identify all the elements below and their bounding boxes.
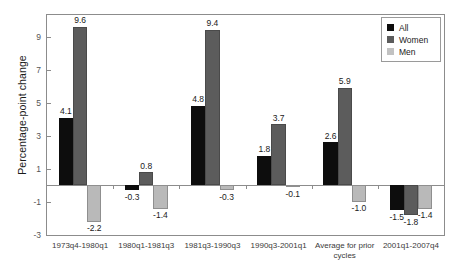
bar-value-label: 0.8 xyxy=(133,161,159,171)
bar-all xyxy=(59,118,73,186)
y-axis-tick-label: 7 xyxy=(28,65,41,75)
y-axis-tick-label: 3 xyxy=(28,131,41,141)
bar-value-label: -0.3 xyxy=(214,192,240,202)
y-axis-tick xyxy=(47,136,51,137)
y-axis-tick xyxy=(47,169,51,170)
bar-all xyxy=(191,106,205,185)
bar-men xyxy=(286,185,300,187)
y-axis-tick xyxy=(47,37,51,38)
x-axis-tick xyxy=(113,185,114,189)
bar-value-label: 5.9 xyxy=(332,76,358,86)
bar-value-label: -1.4 xyxy=(147,210,173,220)
legend-label-men: Men xyxy=(399,47,416,57)
y-axis-tick-label: 1 xyxy=(28,164,41,174)
bar-women xyxy=(271,124,285,185)
bar-men xyxy=(87,185,101,221)
legend-swatch-all-icon xyxy=(387,24,394,31)
legend-swatch-men-icon xyxy=(387,48,394,55)
x-axis-tick xyxy=(378,185,379,189)
legend-label-women: Women xyxy=(399,35,428,45)
bar-women xyxy=(205,30,219,185)
y-axis-tick xyxy=(47,70,51,71)
y-axis-tick xyxy=(47,202,51,203)
bar-men xyxy=(153,185,167,208)
bar-men xyxy=(352,185,366,202)
bar-value-label: -1.4 xyxy=(412,210,438,220)
y-axis-tick xyxy=(47,235,51,236)
x-axis-tick xyxy=(246,185,247,189)
bar-value-label: -1.0 xyxy=(346,203,372,213)
x-axis-tick xyxy=(179,185,180,189)
x-axis-tick xyxy=(312,185,313,189)
y-axis-title: Percentage-point change xyxy=(16,0,28,230)
bar-women xyxy=(139,172,153,185)
legend-swatch-women-icon xyxy=(387,36,394,43)
bar-men xyxy=(220,185,234,190)
bar-value-label: 9.4 xyxy=(199,18,225,28)
y-axis-tick-label: -3 xyxy=(28,230,41,240)
chart-legend: All Women Men xyxy=(381,17,441,62)
bar-value-label: -0.1 xyxy=(280,189,306,199)
legend-item-men: Men xyxy=(387,46,436,57)
bar-men xyxy=(418,185,432,208)
y-axis-tick-label: 5 xyxy=(28,98,41,108)
bar-value-label: 9.6 xyxy=(67,15,93,25)
bar-women xyxy=(73,27,87,186)
x-axis-category-label: 2001q1-2007q4 xyxy=(370,241,452,251)
bar-all xyxy=(390,185,404,210)
bar-all xyxy=(257,156,271,186)
bar-all xyxy=(125,185,139,190)
bar-all xyxy=(323,142,337,185)
bar-value-label: -0.3 xyxy=(119,192,145,202)
y-axis-tick xyxy=(47,103,51,104)
bar-value-label: 3.7 xyxy=(266,113,292,123)
legend-label-all: All xyxy=(399,23,408,33)
legend-item-all: All xyxy=(387,22,436,33)
bar-women xyxy=(338,88,352,186)
y-axis-tick-label: 9 xyxy=(28,32,41,42)
legend-item-women: Women xyxy=(387,34,436,45)
bar-value-label: -2.2 xyxy=(81,223,107,233)
chart-figure: Percentage-point change 97531-1-3 4.19.6… xyxy=(0,0,455,270)
y-axis-tick-label: -1 xyxy=(28,197,41,207)
